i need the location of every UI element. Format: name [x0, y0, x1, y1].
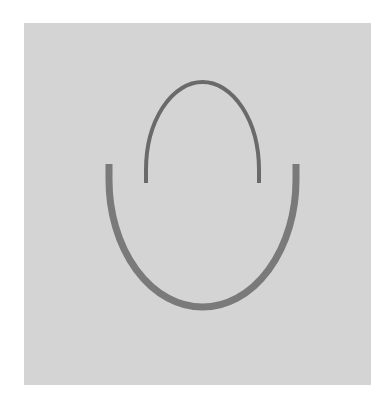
outer-u-shape — [109, 164, 296, 307]
inner-arc-shape — [146, 82, 259, 183]
figure-canvas — [0, 0, 389, 404]
